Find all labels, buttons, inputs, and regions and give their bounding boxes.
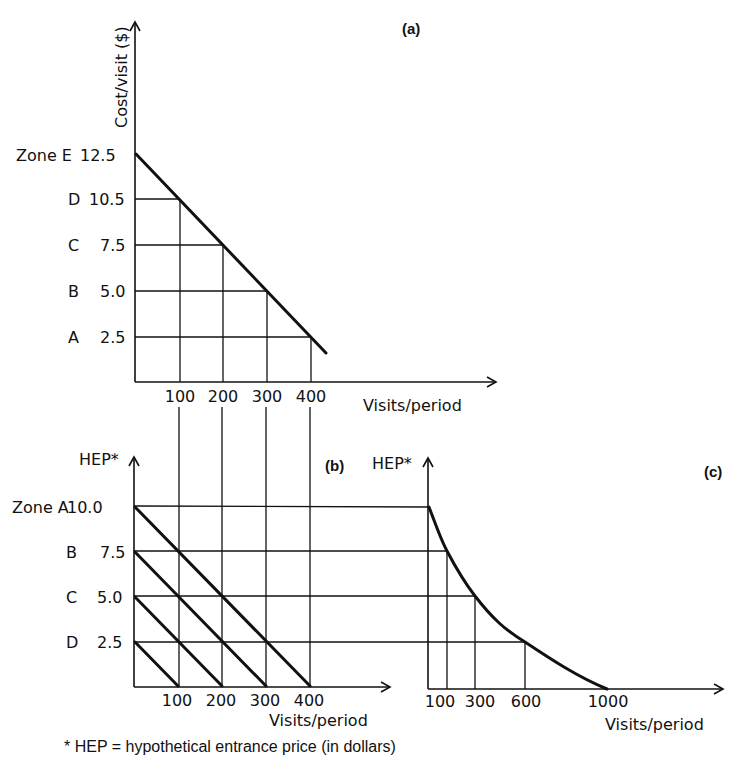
figure-canvas: Cost/visit ($) (a) Zone E12.5 D10.5 C7.5… xyxy=(0,0,738,761)
c-ylabel: HEP* xyxy=(372,454,412,473)
b-ytick-b: B7.5 xyxy=(66,543,125,562)
b-ytick-c: C5.0 xyxy=(66,588,122,607)
c-aggregate-demand-curve xyxy=(429,507,607,689)
a-ytick-b: B5.0 xyxy=(68,282,125,301)
b-xlabel: Visits/period xyxy=(269,711,368,730)
footnote: * HEP = hypothetical entrance price (in … xyxy=(64,738,396,755)
a-xtick-300: 300 xyxy=(252,387,283,406)
a-ytick-d: D10.5 xyxy=(68,190,125,209)
b-xtick-400: 400 xyxy=(294,691,325,710)
a-demand-line xyxy=(136,154,326,353)
a-xtick-200: 200 xyxy=(208,387,239,406)
connector-lines xyxy=(179,407,310,687)
a-xtick-400: 400 xyxy=(296,387,327,406)
a-ylabel: Cost/visit ($) xyxy=(112,26,131,128)
b-ytick-zone-a: Zone A10.0 xyxy=(12,498,103,517)
c-xtick-600: 600 xyxy=(511,692,542,711)
c-xtick-100: 100 xyxy=(425,692,456,711)
c-panel-label: (c) xyxy=(704,463,722,480)
b-xtick-200: 200 xyxy=(206,691,237,710)
b-zone-d-line xyxy=(135,642,178,686)
panel-a: Cost/visit ($) (a) Zone E12.5 D10.5 C7.5… xyxy=(16,20,496,415)
c-xtick-1000: 1000 xyxy=(588,692,629,711)
c-xlabel: Visits/period xyxy=(605,715,704,734)
b-xtick-100: 100 xyxy=(162,691,193,710)
c-xtick-300: 300 xyxy=(465,692,496,711)
b-ylabel: HEP* xyxy=(79,450,119,469)
a-xlabel: Visits/period xyxy=(363,396,462,415)
a-xtick-100: 100 xyxy=(165,387,196,406)
a-ytick-zone-e: Zone E12.5 xyxy=(16,146,116,165)
b-xtick-300: 300 xyxy=(250,691,281,710)
b-ytick-d: D2.5 xyxy=(66,633,122,652)
a-ytick-c: C7.5 xyxy=(68,236,125,255)
a-panel-label: (a) xyxy=(402,20,420,37)
panel-b: HEP* (b) Zone A10.0 B7.5 C5.0 D2.5 100 2… xyxy=(12,450,525,730)
panel-c: HEP* (c) 100 300 600 1000 Visits/period xyxy=(372,454,723,734)
b-panel-label: (b) xyxy=(325,457,344,474)
a-ytick-a: A2.5 xyxy=(68,328,125,347)
b-hgrid-10.0 xyxy=(134,506,428,507)
